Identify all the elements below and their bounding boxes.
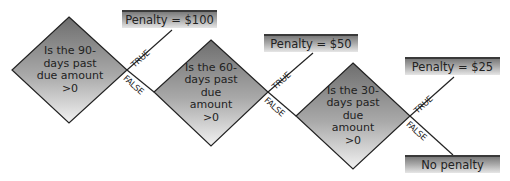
decision-text-90: Is the 90-days past due amount >0 [34,48,106,92]
outcome-penalty-25: Penalty = $25 [405,57,500,75]
decision-text-30: Is the 30-days past due amount >0 [324,89,382,143]
decision-text-60: Is the 60-days past due amount >0 [182,66,240,120]
outcome-penalty-100: Penalty = $100 [122,10,217,28]
outcome-no-penalty: No penalty [405,155,500,173]
outcome-penalty-50: Penalty = $50 [264,34,358,52]
